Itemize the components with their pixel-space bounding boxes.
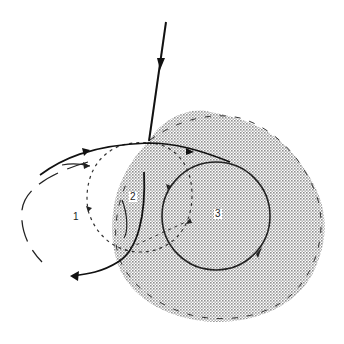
- circle-1-inner-arrow-icon: [86, 206, 92, 212]
- incoming-arrow-icon: [157, 58, 165, 70]
- exit-arrow-icon: [70, 271, 79, 281]
- label-2: 2: [129, 192, 137, 202]
- incoming-line: [149, 22, 166, 141]
- label-3: 3: [214, 209, 222, 219]
- label-1: 1: [73, 212, 79, 222]
- diagram-canvas: [0, 0, 344, 344]
